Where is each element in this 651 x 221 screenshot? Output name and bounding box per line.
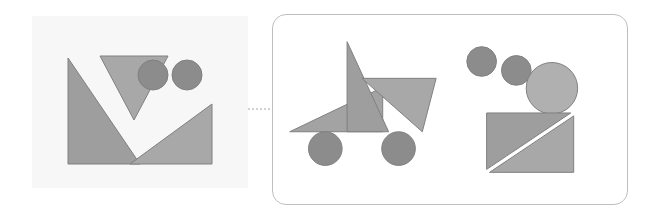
circles-and-box-assembly — [467, 47, 578, 173]
large-circle — [526, 62, 577, 113]
truck-assembly — [290, 42, 436, 166]
truck-wheel-front — [382, 132, 416, 166]
result-shapes-canvas — [273, 15, 627, 204]
bottom-right-triangle — [130, 104, 212, 164]
shape-composition-figure: source shapes panel assembled result car… — [0, 0, 651, 221]
truck-wheel-rear — [308, 132, 342, 166]
small-circle-left — [138, 60, 168, 90]
source-shapes-canvas — [32, 16, 248, 188]
source-shapes-panel: source shapes panel — [32, 16, 248, 188]
assembled-result-card: assembled result card — [272, 14, 628, 205]
small-circle-upper-right — [501, 56, 531, 86]
source-to-result-connector — [248, 108, 274, 112]
small-circle-right — [172, 60, 202, 90]
small-circle-upper-left — [467, 47, 497, 77]
